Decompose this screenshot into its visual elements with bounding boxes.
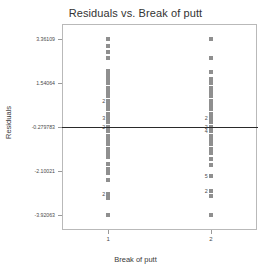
reference-line <box>62 127 258 128</box>
data-point <box>106 56 110 60</box>
data-point <box>209 120 213 124</box>
data-point <box>209 213 213 217</box>
residual-scatter-chart: Residuals vs. Break of putt 3.361091.540… <box>0 0 271 273</box>
x-tick-mark <box>108 230 109 234</box>
data-point <box>106 167 110 171</box>
data-point <box>106 162 110 166</box>
data-point <box>106 50 110 54</box>
data-point <box>106 213 110 217</box>
y-tick-label: -3.92063 <box>0 212 55 218</box>
data-point <box>209 70 213 74</box>
data-point <box>209 37 213 41</box>
y-tick-mark <box>58 171 62 172</box>
data-point <box>209 157 213 161</box>
y-tick-label: -2.10021 <box>0 168 55 174</box>
data-point <box>209 163 213 167</box>
data-point <box>209 174 213 178</box>
x-tick-label: 2 <box>201 236 221 242</box>
data-point <box>209 194 213 198</box>
y-tick-mark <box>58 215 62 216</box>
x-tick-label: 1 <box>98 236 118 242</box>
data-point <box>106 178 110 182</box>
data-point <box>209 56 213 60</box>
y-tick-mark <box>58 39 62 40</box>
data-point <box>106 196 110 200</box>
y-tick-label: 3.36109 <box>0 36 55 42</box>
point-count-label: 5 <box>205 173 209 179</box>
data-point <box>106 120 110 124</box>
chart-title: Residuals vs. Break of putt <box>0 7 271 19</box>
data-point <box>106 44 110 48</box>
y-tick-label: 1.54064 <box>0 80 55 86</box>
y-tick-mark <box>58 83 62 84</box>
data-point <box>209 151 213 155</box>
x-tick-mark <box>211 230 212 234</box>
data-point <box>106 37 110 41</box>
x-axis-title: Break of putt <box>0 255 271 264</box>
data-point <box>106 171 110 175</box>
data-point <box>106 155 110 159</box>
data-point <box>209 189 213 193</box>
y-axis-title: Residuals <box>4 93 13 153</box>
